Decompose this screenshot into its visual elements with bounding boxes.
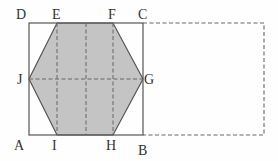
label-F: F	[108, 7, 116, 22]
label-J: J	[17, 72, 23, 87]
label-A: A	[14, 138, 25, 153]
label-E: E	[52, 7, 61, 22]
dashed-extension-rectangle	[143, 23, 264, 135]
label-B: B	[138, 143, 147, 158]
label-D: D	[16, 7, 26, 22]
label-I: I	[52, 138, 57, 153]
label-H: H	[106, 138, 116, 153]
label-C: C	[138, 7, 147, 22]
label-G: G	[144, 72, 154, 87]
geometry-diagram: D E F C J G A I H B	[0, 0, 278, 161]
